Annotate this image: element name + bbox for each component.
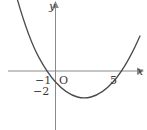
y-tick-label-minus-2: −2 xyxy=(33,86,49,97)
origin-label: O xyxy=(59,75,68,86)
x-axis-label: x xyxy=(137,66,143,77)
y-axis-label: y xyxy=(49,1,55,12)
parabola-figure: y x O −1 5 −2 xyxy=(0,0,147,130)
coordinate-plot xyxy=(0,0,147,130)
x-tick-label-5: 5 xyxy=(110,75,117,86)
